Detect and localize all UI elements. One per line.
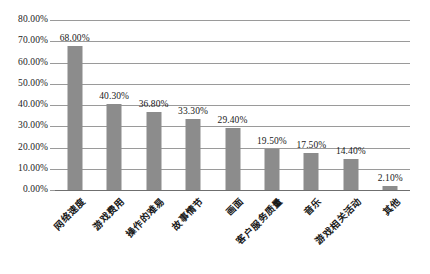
y-axis-label: 60.00%	[18, 58, 48, 68]
bar	[264, 149, 279, 190]
y-axis-tick	[50, 105, 55, 106]
gridline	[55, 63, 410, 64]
x-axis-category-label: 网络速度	[52, 196, 88, 232]
bar-value-label: 29.40%	[218, 115, 248, 125]
y-axis-tick	[50, 190, 55, 191]
bar	[186, 119, 201, 190]
bar	[304, 153, 319, 190]
bar	[146, 112, 161, 190]
bar-value-label: 40.30%	[99, 92, 129, 102]
y-axis-tick	[50, 20, 55, 21]
y-axis-label: 40.00%	[18, 100, 48, 110]
y-axis-label: 50.00%	[18, 79, 48, 89]
y-axis-label: 70.00%	[18, 37, 48, 47]
y-axis-label: 0.00%	[23, 185, 48, 195]
x-axis-category-label: 其他	[382, 196, 403, 217]
x-axis-category-label: 音乐	[303, 196, 324, 217]
y-axis-tick	[50, 126, 55, 127]
y-axis-tick	[50, 41, 55, 42]
y-axis-label: 80.00%	[18, 15, 48, 25]
y-axis-label: 30.00%	[18, 122, 48, 132]
x-axis-category-label: 故事情节	[170, 196, 206, 232]
gridline	[55, 20, 410, 21]
gridline	[55, 84, 410, 85]
bar	[343, 159, 358, 190]
bar-chart: 80.00%70.00%60.00%50.00%40.00%30.00%20.0…	[0, 0, 430, 274]
y-axis-tick	[50, 148, 55, 149]
bar	[225, 128, 240, 190]
y-axis-label: 10.00%	[18, 164, 48, 174]
axis-baseline	[55, 190, 410, 191]
bar-value-label: 36.80%	[139, 99, 169, 109]
gridline	[55, 41, 410, 42]
bar-value-label: 19.50%	[257, 136, 287, 146]
x-axis-category-label: 操作的难易	[124, 196, 167, 239]
y-axis-label: 20.00%	[18, 143, 48, 153]
plot-area: 80.00%70.00%60.00%50.00%40.00%30.00%20.0…	[55, 20, 410, 190]
bar-value-label: 2.10%	[378, 173, 403, 183]
x-axis-category-label: 游戏费用	[91, 196, 127, 232]
y-axis-tick	[50, 63, 55, 64]
x-axis-category-label: 画面	[224, 196, 245, 217]
bar-value-label: 68.00%	[60, 33, 90, 43]
y-axis-tick	[50, 84, 55, 85]
bar-value-label: 14.40%	[336, 147, 366, 157]
bar	[67, 46, 82, 191]
bar	[107, 104, 122, 190]
bar-value-label: 33.30%	[178, 107, 208, 117]
y-axis-tick	[50, 169, 55, 170]
bar	[383, 186, 398, 190]
bar-value-label: 17.50%	[296, 140, 326, 150]
